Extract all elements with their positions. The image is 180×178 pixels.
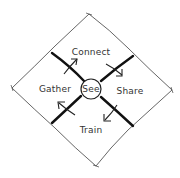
corner-tick-right <box>171 87 173 93</box>
corner-tick-left <box>11 85 13 91</box>
quadrant-label-train: Train <box>80 125 103 135</box>
divider-top-left <box>52 53 84 81</box>
center-label-see: See <box>82 84 99 94</box>
quadrant-label-connect: Connect <box>72 47 111 57</box>
quadrant-label-share: Share <box>117 86 144 96</box>
corner-tick-top <box>86 13 92 15</box>
divider-top-right <box>101 56 133 81</box>
quadrant-label-gather: Gather <box>39 84 71 94</box>
divider-bottom-right <box>101 97 133 126</box>
